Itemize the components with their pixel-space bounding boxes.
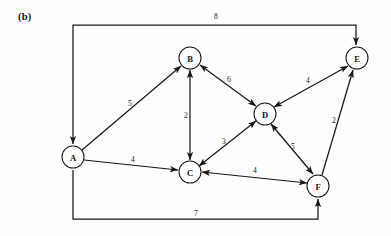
node-B-label: B: [187, 54, 193, 64]
edge-weight-A-E: 8: [214, 12, 218, 21]
node-C[interactable]: C: [179, 161, 201, 183]
node-F-label: F: [315, 182, 320, 192]
node-D[interactable]: D: [254, 103, 276, 125]
edge-F-E: [322, 70, 353, 175]
edge-weight-A-C: 4: [131, 155, 135, 164]
node-B[interactable]: B: [179, 47, 201, 69]
edge-weight-F-E: 2: [332, 116, 336, 125]
node-A-label: A: [70, 153, 77, 163]
node-A[interactable]: A: [62, 146, 84, 168]
edge-weight-A-B: 5: [128, 99, 132, 108]
edge-A-B: [82, 66, 181, 150]
node-E-label: E: [354, 54, 360, 64]
edge-weight-D-E: 4: [306, 76, 310, 85]
node-E[interactable]: E: [346, 47, 368, 69]
edge-weight-B-C: 2: [184, 111, 188, 120]
edge-weight-B-D: 6: [227, 75, 231, 84]
node-D-label: D: [262, 110, 268, 120]
edge-weight-C-F: 4: [253, 166, 257, 175]
edge-D-E: [274, 66, 348, 107]
edge-weight-A-F: 7: [194, 209, 198, 218]
edge-C-D: [199, 121, 256, 166]
figure-canvas: (b): [0, 0, 391, 236]
edge-weight-layer: 8 5 2 6 4 3 5 2 4 4 7: [128, 12, 336, 218]
edge-weight-C-D: 3: [222, 137, 226, 146]
edge-weight-D-F: 5: [291, 142, 295, 151]
node-F[interactable]: F: [307, 175, 329, 197]
node-C-label: C: [187, 168, 193, 178]
edge-B-D: [200, 65, 256, 106]
graph-diagram: A B C D E F 8: [0, 0, 391, 236]
